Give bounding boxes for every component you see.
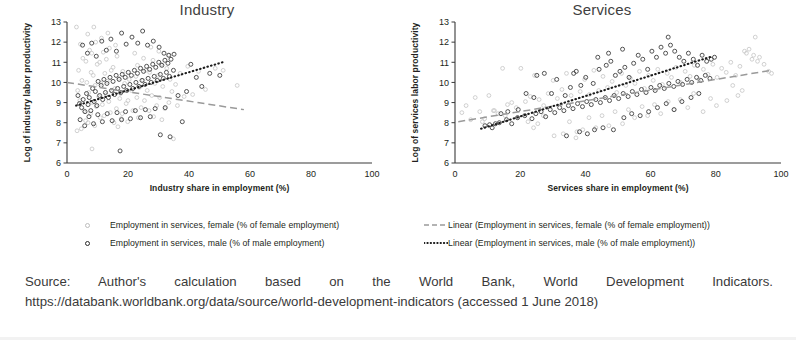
legend-entry-trend-male: Linear (Employment in services, male (% … [424,233,695,253]
legend-entry-points-female: Employment in services, female (% of fem… [84,215,339,235]
svg-text:12: 12 [439,37,449,47]
svg-text:10: 10 [51,78,61,88]
scatter-plot-services: 678910111213020406080100Log of services … [398,0,796,205]
svg-text:20: 20 [123,169,133,179]
series-points [75,25,240,151]
svg-text:80: 80 [306,169,316,179]
scatter-plot-industry: 678910111213020406080100Log of industry … [0,0,398,205]
svg-text:11: 11 [440,58,449,68]
svg-text:80: 80 [711,169,721,179]
figure-container: Industry 678910111213020406080100Log of … [0,0,796,342]
svg-text:8: 8 [444,118,449,128]
trendline [67,82,244,109]
svg-text:20: 20 [515,169,525,179]
legend-label-trend-male: Linear (Employment in services, male (% … [448,238,695,248]
trendline [458,70,771,121]
svg-text:13: 13 [439,17,449,27]
trendline [76,62,222,105]
svg-text:60: 60 [646,169,656,179]
svg-text:40: 40 [184,169,194,179]
legend-row-male: Employment in services, male (% of male … [0,233,796,253]
svg-text:9: 9 [56,98,61,108]
svg-text:13: 13 [51,17,61,27]
legend-row-female: Employment in services, female (% of fem… [0,215,796,235]
legend-marker-dotted-black-line-icon [424,240,448,246]
series-points [483,35,717,138]
chart-panel-services: Services 678910111213020406080100Log of … [398,0,796,205]
svg-text:7: 7 [56,138,61,148]
svg-text:11: 11 [52,58,61,68]
source-line-1: Source: Author's calculation based on th… [25,272,773,292]
chart-legend: Employment in services, female (% of fem… [0,205,796,261]
legend-marker-open-circle-light-icon [84,223,110,228]
bottom-edge-artifact [0,337,796,340]
legend-marker-dashed-gray-line-icon [424,222,448,228]
svg-text:Industry share in employment (: Industry share in employment (%) [150,183,290,193]
svg-text:Services share in employment (: Services share in employment (%) [547,183,688,193]
svg-text:100: 100 [364,169,379,179]
source-caption: Source: Author's calculation based on th… [25,272,775,312]
svg-text:12: 12 [51,37,61,47]
svg-text:0: 0 [452,169,457,179]
legend-label-trend-female: Linear (Employment in services, female (… [448,220,710,230]
legend-marker-open-circle-dark-icon [84,241,110,246]
svg-text:0: 0 [64,169,69,179]
legend-label-points-female: Employment in services, female (% of fem… [110,220,339,230]
legend-entry-trend-female: Linear (Employment in services, female (… [424,215,710,235]
svg-text:6: 6 [444,158,449,168]
svg-text:8: 8 [56,118,61,128]
svg-text:Log of services labor producti: Log of services labor productivity [410,22,420,162]
source-line-2: https://databank.worldbank.org/data/sour… [25,292,775,312]
svg-text:10: 10 [439,78,449,88]
legend-entry-points-male: Employment in services, male (% of male … [84,233,325,253]
svg-text:Log of industry labor producti: Log of industry labor productivity [22,23,32,163]
svg-text:100: 100 [773,169,788,179]
svg-text:6: 6 [56,158,61,168]
svg-text:60: 60 [245,169,255,179]
chart-panel-industry: Industry 678910111213020406080100Log of … [0,0,398,205]
svg-text:40: 40 [580,169,590,179]
legend-label-points-male: Employment in services, male (% of male … [110,238,325,248]
svg-text:7: 7 [444,138,449,148]
svg-text:9: 9 [444,98,449,108]
series-points [460,35,774,140]
